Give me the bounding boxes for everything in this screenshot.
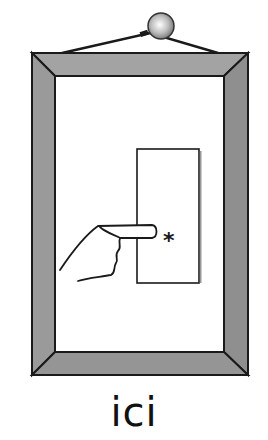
caption-word: ici [0,388,268,436]
nail-icon [140,13,174,39]
hanging-wire [62,33,218,53]
asterisk-mark: * [163,228,175,253]
panel [137,149,200,283]
pictogram: * [0,0,268,390]
